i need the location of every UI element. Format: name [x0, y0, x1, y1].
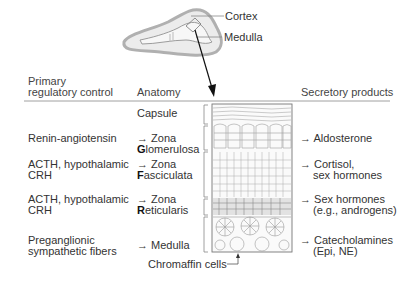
control-renin-angiotensin: Renin-angiotensin	[28, 133, 117, 144]
zone-name-rest: lomerulosa	[146, 143, 200, 155]
adrenal-tissue-section	[212, 104, 292, 252]
anatomy-reticularis: Reticularis	[137, 205, 188, 216]
medulla-label: Medulla	[224, 32, 263, 43]
product-aldosterone: → Aldosterone	[300, 133, 372, 144]
zone-initial: R	[137, 204, 145, 216]
zone-name-rest: eticularis	[145, 204, 188, 216]
header-products: Secretory products	[301, 87, 393, 98]
control-acth-line2: CRH	[28, 170, 52, 181]
anatomy-capsule: Capsule	[137, 108, 177, 119]
anatomy-glomerulosa: Glomerulosa	[137, 144, 199, 155]
cortex-label: Cortex	[225, 11, 257, 22]
zone-initial: F	[137, 169, 144, 181]
zone-name-rest: asciculata	[144, 169, 193, 181]
header-control-line2: regulatory control	[28, 87, 113, 98]
product-catecholamines-line2: (Epi, NE)	[313, 246, 358, 257]
anatomy-fasciculata: Fasciculata	[137, 170, 193, 181]
chromaffin-cells-label: Chromaffin cells	[148, 259, 227, 270]
zone-brackets	[204, 105, 208, 252]
anatomy-medulla: → Medulla	[137, 240, 190, 251]
control-preganglionic-line2: sympathetic fibers	[28, 246, 117, 257]
product-cortisol-line2: sex hormones	[313, 170, 382, 181]
control-acth-line2: CRH	[28, 205, 52, 216]
zone-initial: G	[137, 143, 146, 155]
adrenal-gland-illustration	[124, 10, 222, 56]
product-sex-hormones-line2: (e.g., androgens)	[313, 205, 397, 216]
chromaffin-pointer	[227, 253, 240, 264]
header-anatomy: Anatomy	[137, 87, 180, 98]
